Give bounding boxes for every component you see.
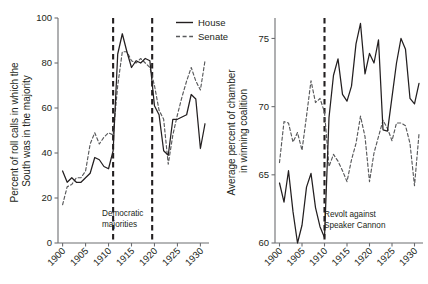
left-y-tick-label: 100	[36, 12, 52, 23]
left-annotation-line1: Democratic	[102, 209, 143, 218]
left-y-tick-label: 80	[41, 57, 52, 68]
left-series-house	[63, 34, 205, 183]
left-x-tick-label: 1920	[137, 245, 160, 268]
right-x-tick-label: 1930	[397, 245, 420, 268]
left-y-tick-label: 0	[47, 237, 52, 248]
right-y-tick-label: 70	[258, 101, 269, 112]
left-x-tick-label: 1910	[91, 245, 114, 268]
right-x-tick-label: 1910	[307, 245, 330, 268]
right-x-tick-group: 1900190519101915192019251930	[262, 243, 420, 268]
right-annotation-line1: Revolt against	[324, 210, 377, 219]
right-x-tick-label: 1915	[329, 245, 352, 268]
left-y-tick-label: 60	[41, 102, 52, 113]
right-y-tick-label: 60	[258, 237, 269, 248]
right-y-tick-label: 65	[258, 169, 269, 180]
left-x-tick-label: 1930	[183, 245, 206, 268]
left-annotation-line2: majorities	[102, 220, 137, 229]
left-y-tick-group: 020406080100	[36, 12, 58, 248]
chart-panel-left: 020406080100 190019051910191519201925193…	[0, 0, 214, 284]
right-panel-svg: 60657075 1900190519101915192019251930 Av…	[214, 0, 428, 284]
left-x-tick-label: 1905	[68, 245, 91, 268]
left-annotation-democratic-majorities: Democratic majorities	[102, 209, 146, 229]
right-annotation-revolt-against-speaker-cannon: Revolt against Speaker Cannon	[324, 210, 386, 230]
right-x-tick-label: 1925	[374, 245, 397, 268]
left-y-axis-title-line1: Percent of roll calls in which the	[9, 62, 20, 203]
right-x-tick-label: 1900	[262, 245, 285, 268]
right-annotation-line2: Speaker Cannon	[324, 221, 386, 230]
right-y-axis-title: Average percent of chamber in winning co…	[226, 67, 249, 196]
left-y-axis-title: Percent of roll calls in which the South…	[9, 60, 32, 203]
right-y-tick-label: 75	[258, 33, 269, 44]
left-panel-svg: 020406080100 190019051910191519201925193…	[0, 0, 214, 284]
left-y-axis-title-line2: South was in the majority	[21, 75, 32, 187]
chart-panel-right: 60657075 1900190519101915192019251930 Av…	[214, 0, 428, 284]
right-series-senate	[280, 81, 420, 186]
left-x-tick-label: 1915	[114, 245, 137, 268]
left-x-tick-group: 1900190519101915192019251930	[45, 243, 206, 268]
left-y-tick-label: 20	[41, 192, 52, 203]
figure-root: 020406080100 190019051910191519201925193…	[0, 0, 428, 284]
right-x-tick-label: 1920	[352, 245, 375, 268]
right-x-tick-label: 1905	[284, 245, 307, 268]
left-x-tick-label: 1925	[160, 245, 183, 268]
right-y-tick-group: 60657075	[258, 33, 275, 249]
left-x-tick-label: 1900	[45, 245, 68, 268]
left-y-tick-label: 40	[41, 147, 52, 158]
right-y-axis-title-line2: in winning coalition	[238, 89, 249, 173]
left-series-senate	[63, 52, 205, 205]
right-y-axis-title-line1: Average percent of chamber	[226, 69, 237, 196]
